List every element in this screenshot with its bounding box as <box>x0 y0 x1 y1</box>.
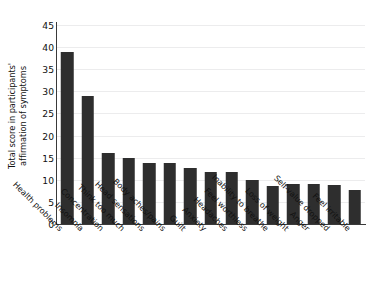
y-tick-label: 15 <box>34 152 54 163</box>
y-axis-title-line-2: affirmation of symptoms <box>17 63 28 169</box>
y-tick-label: 35 <box>34 64 54 75</box>
x-axis-tick-labels: Health problemsInsomniaConcentrationThin… <box>57 226 365 301</box>
bar-chart-figure: Total score in participants' affirmation… <box>0 0 371 301</box>
y-tick-label: 40 <box>34 42 54 53</box>
y-axis-title-line-1: Total score in participants' <box>7 63 18 169</box>
y-tick-label: 25 <box>34 108 54 119</box>
bar[interactable] <box>348 190 361 224</box>
bar-slot <box>139 25 160 224</box>
y-tick-label: 45 <box>34 20 54 31</box>
y-tick-label: 20 <box>34 130 54 141</box>
bar-slot <box>324 25 345 224</box>
bar-slot <box>344 25 365 224</box>
y-tick-label: 30 <box>34 86 54 97</box>
bar-slot <box>160 25 181 224</box>
y-tick-label: 10 <box>34 174 54 185</box>
y-axis-tick-labels: 051015202530354045 <box>30 0 54 301</box>
bar-slot <box>262 25 283 224</box>
